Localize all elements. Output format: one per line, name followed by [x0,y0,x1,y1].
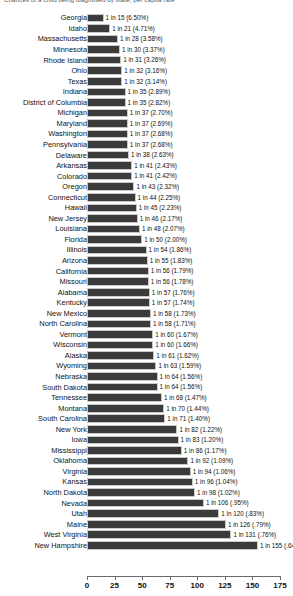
bar [87,298,150,307]
chart-row: Pennsylvania1 in 37 (2.68%) [0,140,293,151]
bar [87,140,128,149]
chart-row: Florida1 in 50 (2.00%) [0,234,293,245]
bar-value-label: 1 in 58 (1.71%) [153,320,196,328]
category-label: Arizona [62,256,87,265]
bar-track: 1 in 50 (2.00%) [87,235,280,244]
bar-value-label: 1 in 155 (.64%) [260,542,293,550]
category-label: Mississippi [51,446,87,455]
bar-value-label: 1 in 38 (2.63%) [131,151,174,159]
chart-row: Oklahoma1 in 92 (1.09%) [0,456,293,467]
category-label: Ohio [71,66,87,75]
chart-row: Alabama1 in 57 (1.76%) [0,287,293,298]
bar-track: 1 in 37 (2.69%) [87,119,280,128]
category-label: New York [56,425,87,434]
category-label: Hawaii [65,203,87,212]
bar-value-label: 1 in 64 (1.56%) [160,373,203,381]
bar-value-label: 1 in 21 (4.71%) [112,25,155,33]
category-label: Iowa [71,435,87,444]
bar-value-label: 1 in 120 (.83%) [221,510,264,518]
bar [87,351,154,360]
chart-row: Montana1 in 70 (1.44%) [0,403,293,414]
bar-track: 1 in 38 (2.63%) [87,151,280,160]
bar-value-label: 1 in 37 (2.68%) [130,130,173,138]
bar [87,288,150,297]
bar [87,404,164,413]
bar [87,151,129,160]
bar-value-label: 1 in 32 (3.16%) [124,67,167,75]
category-label: Idaho [69,24,88,33]
bar [87,341,153,350]
chart-row: Nevada1 in 106 (.95%) [0,498,293,509]
x-axis-tick [142,576,143,580]
bar [87,362,156,371]
bar-value-label: 1 in 56 (1.78%) [151,278,194,286]
category-label: North Dakota [43,488,87,497]
x-axis-tick [197,576,198,580]
bar-track: 1 in 70 (1.44%) [87,404,280,413]
bar [87,509,219,518]
bar-track: 1 in 94 (1.06%) [87,467,280,476]
category-label: Maryland [57,119,87,128]
category-label: New Jersey [48,214,87,223]
chart-row: Illinois1 in 54 (1.86%) [0,245,293,256]
x-axis-tick-label: 125 [218,581,231,590]
category-label: Connecticut [48,193,87,202]
bar [87,45,120,54]
category-label: South Carolina [38,414,87,423]
chart-row: Delaware1 in 38 (2.63%) [0,150,293,161]
bar-value-label: 1 in 58 (1.73%) [153,310,196,318]
category-label: Wisconsin [53,340,87,349]
category-label: Nevada [62,499,87,508]
bar [87,425,177,434]
x-axis-tick-label: 175 [273,581,286,590]
bar-value-label: 1 in 83 (1.20%) [181,436,224,444]
x-axis-tick [115,576,116,580]
category-label: Louisiana [55,224,87,233]
bar-track: 1 in 35 (2.82%) [87,98,280,107]
category-label: Rhode Island [43,56,87,65]
bar-value-label: 1 in 30 (3.37%) [122,46,165,54]
bar [87,467,191,476]
chart-row: Wyoming1 in 63 (1.59%) [0,361,293,372]
category-label: Illinois [66,245,87,254]
bar-track: 1 in 60 (1.67%) [87,330,280,339]
bar-value-label: 1 in 82 (1.22%) [179,426,222,434]
chart-row: Missouri1 in 56 (1.78%) [0,277,293,288]
chart-row: Tennessee1 in 68 (1.47%) [0,393,293,404]
bar-track: 1 in 60 (1.66%) [87,341,280,350]
bar-value-label: 1 in 126 (.79%) [228,521,271,529]
category-label: New Mexico [47,309,87,318]
chart-row: Idaho1 in 21 (4.71%) [0,24,293,35]
x-axis-tick-label: 0 [85,581,89,590]
x-axis-tick [170,576,171,580]
category-label: California [56,267,87,276]
bar-value-label: 1 in 31 (3.26%) [123,56,166,64]
chart-row: New York1 in 82 (1.22%) [0,424,293,435]
chart-row: Iowa1 in 83 (1.20%) [0,435,293,446]
chart-row: North Dakota1 in 98 (1.02%) [0,488,293,499]
bar-track: 1 in 43 (2.32%) [87,182,280,191]
bar-track: 1 in 56 (1.78%) [87,277,280,286]
bar-track: 1 in 46 (2.17%) [87,214,280,223]
category-label: Minnesota [53,45,87,54]
bar-value-label: 1 in 46 (2.17%) [140,215,183,223]
category-label: Michigan [57,108,87,117]
bar-value-label: 1 in 35 (2.89%) [128,88,171,96]
category-label: Vermont [59,330,87,339]
chart-row: Nebraska1 in 64 (1.56%) [0,372,293,383]
bar-value-label: 1 in 45 (2.23%) [139,204,182,212]
x-axis-tick-label: 100 [191,581,204,590]
chart-row: Massachusetts1 in 28 (3.58%) [0,34,293,45]
bar-value-label: 1 in 48 (2.07%) [142,225,185,233]
bar [87,182,134,191]
chart-row: New Hampshire1 in 155 (.64%) [0,540,293,551]
chart-row: North Carolina1 in 58 (1.71%) [0,319,293,330]
x-axis-line [87,576,280,577]
bar-value-label: 1 in 37 (2.69%) [130,120,173,128]
bar-value-label: 1 in 57 (1.76%) [152,289,195,297]
category-label: Nebraska [55,372,87,381]
bar-track: 1 in 48 (2.07%) [87,225,280,234]
bar-value-label: 1 in 106 (.95%) [206,499,249,507]
chart-title: Chances of a child being diagnosed by st… [4,0,289,3]
bar [87,383,158,392]
